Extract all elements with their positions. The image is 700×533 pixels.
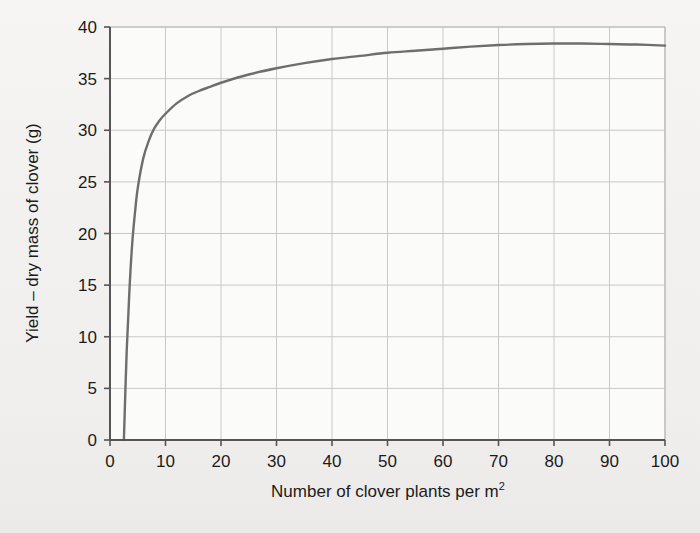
x-tick-label: 20 [212,452,231,471]
x-tick-label: 40 [323,452,342,471]
chart-figure: 0102030405060708090100 0510152025303540 … [0,0,700,533]
x-tick-label: 30 [267,452,286,471]
y-axis-tick-labels: 0510152025303540 [78,18,97,450]
x-tick-label: 10 [156,452,175,471]
x-axis-title-superscript: 2 [499,480,505,492]
y-tick-label: 10 [78,328,97,347]
y-tick-label: 5 [88,379,97,398]
x-tick-label: 0 [105,452,114,471]
y-tick-label: 30 [78,121,97,140]
x-tick-label: 90 [600,452,619,471]
x-axis-tick-labels: 0102030405060708090100 [105,452,679,471]
x-tick-label: 100 [651,452,679,471]
chart-svg: 0102030405060708090100 0510152025303540 … [0,0,700,533]
x-tick-label: 80 [545,452,564,471]
x-tick-label: 70 [489,452,508,471]
y-tick-label: 0 [88,431,97,450]
x-axis-title: Number of clover plants per m2 [271,480,505,501]
y-tick-label: 40 [78,18,97,37]
x-tick-label: 60 [434,452,453,471]
x-tick-label: 50 [378,452,397,471]
y-tick-label: 35 [78,70,97,89]
y-tick-label: 20 [78,225,97,244]
y-tick-label: 25 [78,173,97,192]
x-axis-title-text: Number of clover plants per m [271,482,499,501]
y-tick-label: 15 [78,276,97,295]
y-axis-title: Yield – dry mass of clover (g) [23,123,42,343]
